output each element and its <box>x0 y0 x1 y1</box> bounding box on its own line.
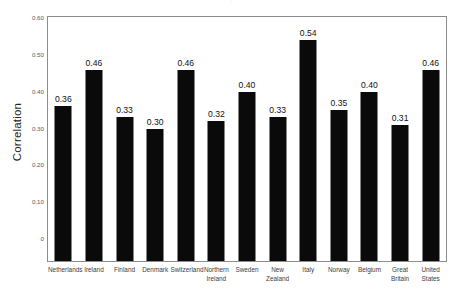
x-axis-tick-label: Italy <box>293 266 324 275</box>
y-axis-tick-label: 0.40 <box>4 89 44 95</box>
bar-value-label: 0.40 <box>239 81 256 90</box>
bar-slot: 0.54 <box>293 17 324 261</box>
bar-slot: 0.40 <box>354 17 385 261</box>
bar-slot: 0.46 <box>415 17 446 261</box>
x-axis-tick-label: Denmark <box>140 266 171 275</box>
bar-slot: 0.33 <box>109 17 140 261</box>
bar[interactable] <box>55 106 72 261</box>
bar-slot: 0.33 <box>262 17 293 261</box>
chart-title: · <box>0 0 463 4</box>
bar-slot: 0.46 <box>170 17 201 261</box>
bar[interactable] <box>361 92 378 261</box>
x-axis-tick-label: Great Britain <box>385 266 416 283</box>
bar[interactable] <box>177 70 194 261</box>
bar-value-label: 0.46 <box>177 59 194 68</box>
bar[interactable] <box>300 40 317 261</box>
x-axis-tick-label: Switzerland <box>170 266 201 275</box>
bar-value-label: 0.30 <box>147 118 164 127</box>
bar-slot: 0.30 <box>140 17 171 261</box>
x-axis-tick-label: Finland <box>109 266 140 275</box>
bar[interactable] <box>392 125 409 261</box>
y-axis-tick-label: 0.60 <box>4 15 44 21</box>
bar[interactable] <box>422 70 439 261</box>
x-axis-tick-label: United States <box>415 266 446 283</box>
bar[interactable] <box>238 92 255 261</box>
x-axis-tick-label: Netherlands <box>48 266 79 275</box>
y-axis-tick-label: 0.30 <box>4 126 44 132</box>
bar[interactable] <box>85 70 102 261</box>
y-axis-tick-label: 0.10 <box>4 199 44 205</box>
bar[interactable] <box>269 117 286 261</box>
bar-value-label: 0.40 <box>361 81 378 90</box>
x-axis-tick-label: New Zealand <box>262 266 293 283</box>
bar[interactable] <box>116 117 133 261</box>
bar-value-label: 0.46 <box>422 59 439 68</box>
y-axis-tick-label: 0 <box>4 236 44 242</box>
y-axis-tick-label: 0.50 <box>4 52 44 58</box>
bar[interactable] <box>330 110 347 261</box>
bar-value-label: 0.32 <box>208 110 225 119</box>
bar-value-label: 0.54 <box>300 29 317 38</box>
bar-slot: 0.32 <box>201 17 232 261</box>
bar[interactable] <box>208 121 225 261</box>
bar-slot: 0.31 <box>385 17 416 261</box>
bar-slot: 0.35 <box>324 17 355 261</box>
bar[interactable] <box>147 129 164 262</box>
bar-value-label: 0.33 <box>269 106 286 115</box>
bar-value-label: 0.35 <box>330 99 347 108</box>
x-axis-tick-labels: NetherlandsIrelandFinlandDenmarkSwitzerl… <box>48 266 446 303</box>
bar-slot: 0.46 <box>79 17 110 261</box>
bar-value-label: 0.36 <box>55 95 72 104</box>
x-axis-tick-label: Ireland <box>79 266 110 275</box>
bar-value-label: 0.31 <box>392 114 409 123</box>
bar-slot: 0.40 <box>232 17 263 261</box>
x-axis-tick-label: Sweden <box>232 266 263 275</box>
x-axis-tick-label: Belgium <box>354 266 385 275</box>
y-axis-tick-label: 0.20 <box>4 162 44 168</box>
correlation-bar-chart: · Correlation 00.100.200.300.400.500.60 … <box>0 0 463 303</box>
x-axis-tick-label: Norway <box>324 266 355 275</box>
bars-layer: 0.360.460.330.300.460.320.400.330.540.35… <box>48 17 446 261</box>
bar-value-label: 0.46 <box>86 59 103 68</box>
bar-slot: 0.36 <box>48 17 79 261</box>
bar-value-label: 0.33 <box>116 106 133 115</box>
x-axis-tick-label: Northern Ireland <box>201 266 232 283</box>
